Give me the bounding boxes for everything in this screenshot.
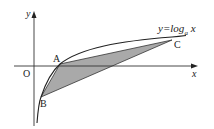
point-c-label: C [174, 40, 181, 50]
point-a-label: A [53, 54, 60, 64]
diagram-canvas [0, 0, 214, 129]
origin-label: O [23, 69, 30, 79]
curve-label-var: x [191, 22, 196, 34]
x-axis-label: x [192, 69, 196, 79]
curve-label-prefix: y=log [158, 22, 184, 34]
shaded-triangle-abc [41, 40, 172, 97]
y-axis-arrow-icon [32, 11, 37, 18]
curve-label-base: a [184, 29, 188, 37]
point-b-label: B [40, 99, 47, 109]
curve-equation-label: y=loga x [158, 23, 196, 37]
y-axis-label: y [26, 9, 30, 19]
